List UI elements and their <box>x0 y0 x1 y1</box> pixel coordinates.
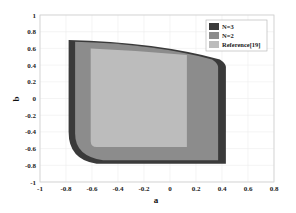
x-tick-label: 0 <box>168 185 172 193</box>
x-tick-label: -0.8 <box>60 185 72 193</box>
y-tick-label: -0.8 <box>25 162 37 170</box>
legend-swatch-reference <box>209 41 219 48</box>
y-tick-label: 1 <box>33 12 37 20</box>
x-tick-label: 0.8 <box>270 185 279 193</box>
legend-label-n3: N=3 <box>222 23 234 30</box>
legend-label-reference: Reference[19] <box>222 41 261 49</box>
x-tick-label: -0.6 <box>86 185 98 193</box>
y-tick-label: -0.2 <box>25 112 37 120</box>
x-tick-label: -0.4 <box>112 185 124 193</box>
y-tick-label: -0.4 <box>25 128 37 136</box>
x-tick-label: -0.2 <box>138 185 150 193</box>
legend-label-n2: N=2 <box>222 32 234 39</box>
y-tick-label: 0 <box>33 95 37 103</box>
y-tick-label: 0.2 <box>27 78 36 86</box>
y-tick-label: 0.8 <box>27 28 36 36</box>
x-tick-labels: -1-0.8-0.6-0.4-0.200.20.40.60.8 <box>37 185 279 193</box>
x-axis-label: a <box>154 195 159 205</box>
y-tick-label: 0.6 <box>27 45 36 53</box>
x-tick-label: -1 <box>37 185 43 193</box>
x-tick-label: 0.4 <box>218 185 227 193</box>
chart: -1-0.8-0.6-0.4-0.200.20.40.60.8 -1-0.8-0… <box>0 0 296 213</box>
y-axis-label: b <box>11 96 21 101</box>
y-tick-label: -1 <box>30 179 36 187</box>
y-tick-labels: -1-0.8-0.6-0.4-0.200.20.40.60.81 <box>25 12 37 187</box>
legend: N=3 N=2 Reference[19] <box>206 20 267 51</box>
data-regions <box>69 40 226 164</box>
x-tick-label: 0.2 <box>192 185 201 193</box>
y-tick-label: 0.4 <box>27 62 36 70</box>
legend-swatch-n2 <box>209 32 219 39</box>
region-reference-19 <box>91 48 187 147</box>
y-tick-label: -0.6 <box>25 145 37 153</box>
x-tick-label: 0.6 <box>244 185 253 193</box>
legend-swatch-n3 <box>209 23 219 30</box>
